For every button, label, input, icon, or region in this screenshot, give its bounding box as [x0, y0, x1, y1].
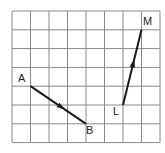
label-b: B — [86, 124, 93, 136]
label-m: M — [143, 15, 152, 27]
label-a: A — [18, 72, 26, 84]
vector-grid-diagram: A B L M — [0, 0, 165, 153]
label-l: L — [113, 105, 119, 117]
arrowhead-icon — [130, 59, 135, 68]
